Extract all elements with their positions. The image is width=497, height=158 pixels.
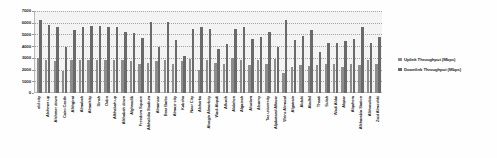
x-axis-tick-label: Wrinz Almazaf xyxy=(283,96,287,122)
x-axis-label-cell: Aljabatand Alfasar xyxy=(272,94,280,158)
x-axis-label-cell: Alqaar xyxy=(340,94,348,158)
bar-downlink xyxy=(319,52,321,93)
bar-group xyxy=(374,11,382,93)
x-axis-tick-label: Alkhabah down xyxy=(122,96,126,124)
bar-downlink xyxy=(294,40,296,93)
x-axis-tick-label: Wadi Alqadi xyxy=(215,96,219,117)
x-axis-tick-label: Alkharabia Station xyxy=(359,96,363,129)
bar-group xyxy=(289,11,297,93)
x-axis-label-cell: Algatrain xyxy=(289,94,297,158)
x-axis-tick-label: Alkhgirat xyxy=(71,96,75,112)
bar-downlink xyxy=(268,32,270,93)
y-axis-tick-label: 3000 xyxy=(1,55,31,60)
bar-downlink xyxy=(243,27,245,93)
bar-group xyxy=(306,11,314,93)
x-axis-label-cell: Wrinz Almazaf xyxy=(281,94,289,158)
bar-group xyxy=(52,11,60,93)
bar-downlink xyxy=(277,47,279,93)
bar-downlink xyxy=(310,30,312,93)
bar-downlink xyxy=(209,29,211,93)
bar-group xyxy=(111,11,119,93)
bar-group xyxy=(171,11,179,93)
x-axis-tick-label: Kabsha xyxy=(181,96,185,110)
bar-downlink xyxy=(167,22,169,93)
x-axis-label-cell: Wadi Aldai xyxy=(331,94,339,158)
bar-group xyxy=(94,11,102,93)
bar-downlink xyxy=(327,43,329,93)
bar-downlink xyxy=(124,32,126,94)
legend-item[interactable]: Downlink Throughput (Mbps) xyxy=(398,67,497,72)
legend-item[interactable]: Uplink Throughput (Mbps) xyxy=(398,57,497,62)
bar-downlink xyxy=(378,37,380,93)
bar-downlink xyxy=(39,20,41,93)
x-axis-tick-label: Cairo Castle xyxy=(62,96,66,118)
x-axis-label-cell: old city xyxy=(35,94,43,158)
bar-group xyxy=(120,11,128,93)
bar-group xyxy=(145,11,153,93)
bar-group xyxy=(103,11,111,93)
x-axis-tick-label: Aladhil xyxy=(308,96,312,109)
chart-legend: Uplink Throughput (Mbps)Downlink Through… xyxy=(398,57,497,77)
x-axis-label-cell: Alqahera xyxy=(348,94,356,158)
x-axis-tick-label: Alkhrawbia xyxy=(367,96,371,116)
x-axis-tick-label: Alkhabah up xyxy=(113,96,117,119)
bar-group xyxy=(137,11,145,93)
bar-group xyxy=(281,11,289,93)
bar-group xyxy=(69,11,77,93)
bar-downlink xyxy=(200,27,202,93)
x-axis-label-cell: Almanzar xyxy=(154,94,162,158)
x-axis-tick-label: Almabah xyxy=(79,96,83,112)
bar-downlink xyxy=(192,29,194,93)
x-axis-labels: old cityAlshmer upAlshmer downCairo Cast… xyxy=(34,94,382,158)
bar-group xyxy=(43,11,51,93)
x-axis-tick-label: Bear Barbs xyxy=(164,96,168,116)
bar-group xyxy=(348,11,356,93)
bar-group xyxy=(298,11,306,93)
x-axis-label-cell: Thaati xyxy=(314,94,322,158)
bar-group xyxy=(264,11,272,93)
x-axis-label-cell: Almazr city xyxy=(171,94,179,158)
x-axis-label-cell: Taz university xyxy=(264,94,272,158)
x-axis-tick-label: Almarkity xyxy=(88,96,92,113)
y-axis: 70006000500040003000200010000 xyxy=(0,0,34,93)
x-axis-tick-label: Almanzar xyxy=(156,96,160,113)
x-axis-tick-label: Alsagin Almarkziy xyxy=(206,96,210,129)
x-axis-label-cell: Alshmer down xyxy=(52,94,60,158)
bar-downlink xyxy=(353,39,355,93)
x-axis-label-cell: Aldahi xyxy=(298,94,306,158)
bar-group xyxy=(221,11,229,93)
bar-group xyxy=(162,11,170,93)
x-axis-label-cell: Alsagin Almarkziy xyxy=(204,94,212,158)
x-axis-tick-label: Alshmer down xyxy=(54,96,58,122)
bar-chart: 70006000500040003000200010000 old cityAl… xyxy=(0,0,497,158)
x-axis-label-cell: Alkhrawbia xyxy=(365,94,373,158)
bar-downlink xyxy=(90,26,92,93)
x-axis-tick-label: Thaati xyxy=(317,96,321,107)
y-axis-tick-label: 4000 xyxy=(1,44,31,49)
bar-group xyxy=(357,11,365,93)
bar-group xyxy=(314,11,322,93)
x-axis-label-cell: Alkhabah up xyxy=(111,94,119,158)
bar-group xyxy=(340,11,348,93)
bar-group xyxy=(77,11,85,93)
x-axis-label-cell: Almabah xyxy=(77,94,85,158)
bar-downlink xyxy=(336,43,338,93)
bar-downlink xyxy=(302,36,304,93)
x-axis-label-cell: Zaid Almoshki xyxy=(374,94,382,158)
x-axis-label-cell: Alsarny xyxy=(255,94,263,158)
bar-downlink xyxy=(370,43,372,93)
plot-area xyxy=(34,11,382,93)
bar-downlink xyxy=(226,44,228,93)
x-axis-label-cell: Freedom Square xyxy=(137,94,145,158)
x-axis-label-cell: Cairo Castle xyxy=(60,94,68,158)
bar-downlink xyxy=(234,29,236,93)
x-axis-tick-label: Alsharka xyxy=(198,96,202,112)
x-axis-label-cell: Alkhgirat xyxy=(69,94,77,158)
bar-group xyxy=(187,11,195,93)
x-axis-tick-label: Alsarny xyxy=(257,96,261,110)
x-axis-label-cell: Alsalam xyxy=(247,94,255,158)
x-axis-tick-label: Aljabatand Alfasar xyxy=(274,96,278,129)
bar-group xyxy=(60,11,68,93)
x-axis-label-cell: Alkharabia Station xyxy=(357,94,365,158)
x-axis-label-cell: Kabsha xyxy=(179,94,187,158)
